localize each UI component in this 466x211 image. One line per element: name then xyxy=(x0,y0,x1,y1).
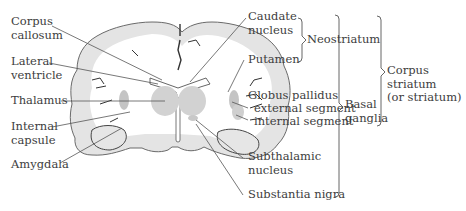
label-line: Basal xyxy=(345,98,388,112)
label-thalamus: Thalamus xyxy=(11,94,68,108)
group-label-basal-ganglia: Basal ganglia xyxy=(345,98,388,125)
label-substantia-nigra: Substantia nigra xyxy=(248,188,345,202)
label-line: capsule xyxy=(11,134,58,148)
label-subthalamic-nucleus: Subthalamic nucleus xyxy=(248,150,321,177)
label-caudate-nucleus: Caudate nucleus xyxy=(248,10,297,37)
label-line: Internal xyxy=(11,120,58,134)
label-internal-capsule: Internal capsule xyxy=(11,120,58,147)
label-amygdala: Amygdala xyxy=(11,158,69,172)
label-line: callosum xyxy=(11,29,63,43)
label-line: ganglia xyxy=(345,112,388,126)
brain-section-illustration xyxy=(0,0,466,211)
label-line: striatum xyxy=(387,78,462,92)
label-line: nucleus xyxy=(248,164,321,178)
label-lateral-ventricle: Lateral ventricle xyxy=(11,55,62,82)
group-label-corpus-striatum: Corpus striatum (or striatum) xyxy=(387,64,462,105)
label-line: Corpus xyxy=(11,15,63,29)
label-putamen: Putamen xyxy=(248,53,300,67)
label-line: Corpus xyxy=(387,64,462,78)
label-line: nucleus xyxy=(248,24,297,38)
group-label-neostriatum: Neostriatum xyxy=(307,33,380,47)
label-line: (or striatum) xyxy=(387,91,462,105)
label-internal-segment: internal segment xyxy=(254,115,353,129)
label-line: Lateral xyxy=(11,55,62,69)
label-line: Subthalamic xyxy=(248,150,321,164)
label-line: ventricle xyxy=(11,69,62,83)
label-line: Caudate xyxy=(248,10,297,24)
label-corpus-callosum: Corpus callosum xyxy=(11,15,63,42)
